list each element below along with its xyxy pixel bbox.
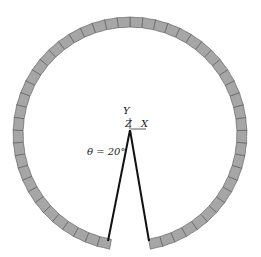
- ring-segment: [14, 105, 26, 119]
- ring-segment: [232, 154, 245, 168]
- ring-diagram: Y Z X θ = 20°: [0, 0, 261, 257]
- ring-segment: [142, 18, 156, 30]
- ring-segment: [130, 17, 143, 28]
- y-axis-label: Y: [123, 105, 131, 116]
- ring-segment: [235, 142, 247, 156]
- x-axis-label: X: [140, 118, 149, 129]
- ring-segment: [13, 142, 25, 156]
- opening-line-right: [130, 130, 149, 241]
- diagram-canvas: Y Z X θ = 20°: [0, 0, 261, 257]
- ring-segment: [117, 17, 130, 28]
- ring-segment: [13, 117, 24, 130]
- ring-segment: [237, 130, 247, 143]
- angle-label: θ = 20°: [87, 146, 125, 157]
- ring-segment: [13, 130, 23, 143]
- z-axis-label: Z: [124, 118, 133, 129]
- ring-segment: [236, 117, 247, 130]
